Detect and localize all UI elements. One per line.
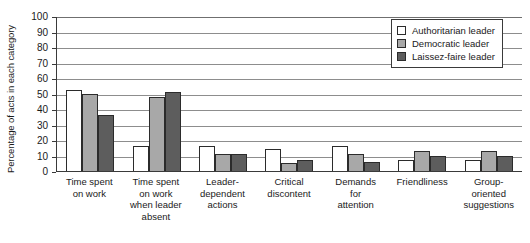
bar	[364, 162, 380, 171]
x-axis-label: Time spent on work when leader absent	[123, 176, 190, 222]
bar	[98, 115, 114, 171]
bar	[149, 97, 165, 171]
bar	[215, 154, 231, 171]
bar	[199, 146, 215, 171]
bar	[133, 146, 149, 171]
legend-item: Democratic leader	[397, 37, 495, 50]
bar	[414, 151, 430, 171]
y-axis-title: Percentage of acts in each category	[2, 8, 20, 190]
bar	[348, 154, 364, 171]
y-tick-label-20: 20	[37, 136, 48, 146]
x-axis-label: Leader- dependent actions	[189, 176, 256, 211]
bar	[398, 160, 414, 171]
bar-group	[123, 17, 189, 171]
x-axis-label: Demands for attention	[322, 176, 389, 211]
legend-item-label: Authoritarian leader	[412, 25, 495, 37]
x-axis-label: Friendliness	[389, 176, 456, 188]
y-tick-label-10: 10	[37, 152, 48, 162]
y-tick-label-90: 90	[37, 28, 48, 38]
bar-group	[323, 17, 389, 171]
bar	[497, 156, 513, 172]
bar	[231, 154, 247, 171]
bar-group	[190, 17, 256, 171]
bar	[82, 94, 98, 172]
bar	[332, 146, 348, 171]
legend: Authoritarian leaderDemocratic leaderLai…	[391, 19, 503, 68]
y-tick-label-80: 80	[37, 43, 48, 53]
bar	[66, 90, 82, 171]
legend-item-label: Democratic leader	[412, 38, 489, 50]
y-tick-mark-0	[52, 172, 56, 173]
legend-swatch-icon	[397, 39, 406, 48]
legend-item: Authoritarian leader	[397, 24, 495, 37]
x-axis-label: Critical discontent	[256, 176, 323, 199]
y-tick-label-50: 50	[37, 90, 48, 100]
legend-swatch-icon	[397, 26, 406, 35]
bar-group	[57, 17, 123, 171]
bar	[297, 160, 313, 171]
x-axis-label: Time spent on work	[56, 176, 123, 199]
x-axis-label: Group- oriented suggestions	[455, 176, 522, 211]
legend-item-label: Laissez-faire leader	[412, 51, 495, 63]
y-tick-label-30: 30	[37, 121, 48, 131]
bar	[281, 163, 297, 171]
bar	[265, 149, 281, 171]
y-tick-label-70: 70	[37, 59, 48, 69]
y-tick-label-40: 40	[37, 105, 48, 115]
bar	[430, 156, 446, 172]
legend-item: Laissez-faire leader	[397, 50, 495, 63]
bar	[465, 160, 481, 171]
bar	[481, 151, 497, 171]
y-tick-label-60: 60	[37, 74, 48, 84]
x-axis-category-labels: Time spent on workTime spent on work whe…	[56, 176, 522, 238]
bar	[165, 92, 181, 171]
bar-chart: Percentage of acts in each category 1009…	[0, 0, 530, 243]
bar-group	[256, 17, 322, 171]
y-tick-label-100: 100	[31, 12, 48, 22]
legend-swatch-icon	[397, 52, 406, 61]
y-tick-label-0: 0	[42, 167, 48, 177]
